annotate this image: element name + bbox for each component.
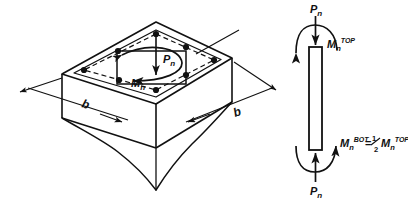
rebar-dot: [211, 57, 217, 63]
rebar-dot: [183, 72, 189, 78]
engineering-diagram: Pn Mn b b: [0, 0, 408, 198]
figure-canvas: Pn Mn b b: [0, 0, 408, 198]
equation-equals: =: [365, 137, 371, 149]
fraction-denominator: 2: [374, 145, 378, 154]
rebar-dot: [115, 48, 121, 54]
rebar-dot: [116, 77, 122, 83]
rebar-dot: [183, 44, 189, 50]
rebar-dot: [81, 67, 87, 73]
rebar-dot: [153, 87, 159, 93]
